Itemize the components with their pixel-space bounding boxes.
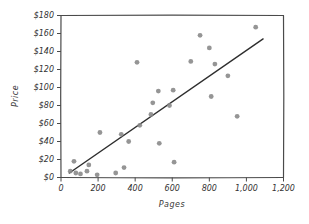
data-point <box>167 103 172 108</box>
data-point <box>207 46 212 51</box>
data-point <box>135 60 140 65</box>
x-tick-label: 200 <box>90 184 105 193</box>
scatter-chart: $0$20$40$60$80$100$120$140$160$180020040… <box>0 0 309 224</box>
data-point <box>85 169 90 174</box>
data-point <box>98 130 103 135</box>
data-point <box>150 100 155 105</box>
y-tick-label: $140 <box>34 47 54 56</box>
data-point <box>72 159 77 164</box>
y-tick-label: $180 <box>34 11 54 20</box>
x-tick-label: 1,000 <box>235 184 258 193</box>
y-tick-label: $100 <box>34 83 54 92</box>
data-point <box>235 114 240 119</box>
x-tick-label: 800 <box>202 184 217 193</box>
data-point <box>78 172 83 177</box>
data-point <box>137 123 142 128</box>
y-tick-label: $60 <box>39 119 54 128</box>
y-tick-label: $80 <box>39 101 54 110</box>
data-point <box>119 132 124 137</box>
x-tick-label: 400 <box>128 184 143 193</box>
y-axis-title: Price <box>11 85 20 107</box>
y-tick-label: $160 <box>34 29 54 38</box>
x-tick-label: 600 <box>165 184 180 193</box>
data-point <box>95 172 100 177</box>
y-tick-label: $0 <box>44 173 54 182</box>
data-point <box>209 94 214 99</box>
trend-line <box>69 39 263 173</box>
data-point <box>157 141 162 146</box>
x-tick-label: 0 <box>58 184 63 193</box>
data-point <box>198 33 203 38</box>
data-point <box>225 73 230 78</box>
data-point <box>73 171 78 176</box>
y-tick-label: $120 <box>34 65 54 74</box>
y-tick-label: $20 <box>39 155 54 164</box>
x-axis-title-text: Pages <box>159 200 185 209</box>
data-point <box>68 169 73 174</box>
data-point <box>212 62 217 67</box>
data-point <box>122 165 127 170</box>
data-point <box>188 59 193 64</box>
data-point <box>172 160 177 165</box>
data-point <box>156 89 161 94</box>
data-point <box>86 163 91 168</box>
x-axis-title: Pages <box>0 200 309 209</box>
data-point <box>149 112 154 117</box>
x-tick-label: 1,200 <box>272 184 295 193</box>
plot-area: $0$20$40$60$80$100$120$140$160$180020040… <box>0 0 309 224</box>
data-point <box>253 25 258 30</box>
data-point <box>113 171 118 176</box>
data-point <box>171 88 176 93</box>
data-point <box>126 139 131 144</box>
y-tick-label: $40 <box>39 137 54 146</box>
